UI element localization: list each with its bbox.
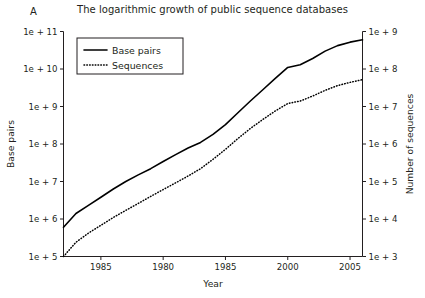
right-tick-label: 1e + 6: [369, 139, 398, 149]
left-axis-title: Base pairs: [5, 120, 16, 168]
left-axis-tick-labels: 1e + 51e + 61e + 71e + 81e + 91e + 101e …: [23, 27, 57, 262]
bottom-axis: 19851980198520002005 Year: [64, 257, 363, 289]
left-axis-ticks: [60, 32, 64, 257]
right-tick-label: 1e + 3: [369, 252, 398, 262]
right-axis-tick-labels: 1e + 31e + 41e + 51e + 61e + 71e + 81e +…: [369, 27, 398, 262]
right-axis: 1e + 31e + 41e + 51e + 61e + 71e + 81e +…: [363, 27, 416, 262]
left-tick-label: 1e + 8: [29, 139, 58, 149]
bottom-tick-label: 1985: [90, 262, 112, 272]
legend-label: Base pairs: [112, 45, 161, 56]
left-tick-label: 1e + 9: [29, 102, 58, 112]
bottom-axis-tick-labels: 19851980198520002005: [90, 262, 361, 272]
right-axis-ticks: [363, 32, 367, 257]
legend-label: Sequences: [112, 60, 163, 71]
left-tick-label: 1e + 7: [29, 177, 58, 187]
bottom-tick-label: 1985: [215, 262, 237, 272]
left-tick-label: 1e + 11: [23, 27, 57, 37]
right-tick-label: 1e + 9: [369, 27, 398, 37]
bottom-tick-label: 2005: [339, 262, 361, 272]
right-axis-title: Number of sequences: [404, 93, 415, 194]
right-tick-label: 1e + 5: [369, 177, 398, 187]
series-line-sequences: [64, 80, 363, 257]
line-chart: 1e + 51e + 61e + 71e + 81e + 91e + 101e …: [0, 0, 425, 298]
left-axis: 1e + 51e + 61e + 71e + 81e + 91e + 101e …: [5, 27, 64, 262]
figure-container: A The logarithmic growth of public seque…: [0, 0, 425, 298]
right-tick-label: 1e + 4: [369, 214, 398, 224]
bottom-axis-ticks: [101, 257, 350, 261]
right-tick-label: 1e + 7: [369, 102, 398, 112]
chart-legend: Base pairsSequences: [77, 38, 183, 74]
left-tick-label: 1e + 6: [29, 214, 58, 224]
bottom-tick-label: 2000: [277, 262, 299, 272]
x-axis-title: Year: [202, 278, 223, 289]
bottom-tick-label: 1980: [152, 262, 174, 272]
left-tick-label: 1e + 10: [23, 64, 57, 74]
right-tick-label: 1e + 8: [369, 64, 398, 74]
left-tick-label: 1e + 5: [29, 252, 58, 262]
